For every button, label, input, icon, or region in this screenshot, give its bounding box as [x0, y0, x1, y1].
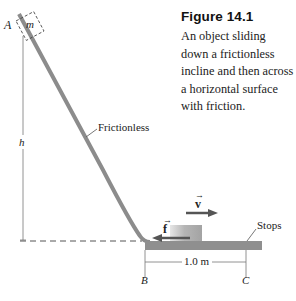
incline-diagram: A m h Frictionless → v → f Stops 1.0 m B…: [0, 0, 296, 301]
figure-title: Figure 14.1: [181, 9, 296, 24]
stops-leader-line: [247, 229, 256, 241]
frictionless-label: Frictionless: [98, 121, 149, 133]
point-c-label: C: [242, 274, 249, 286]
frictionless-leader-line: [86, 129, 97, 137]
height-label: h: [19, 135, 25, 149]
point-a-label: A: [4, 18, 11, 33]
distance-label: 1.0 m: [184, 255, 209, 267]
point-b-label: B: [141, 274, 148, 286]
stops-label: Stops: [257, 219, 281, 231]
mass-label: m: [26, 18, 34, 30]
friction-label: → f: [163, 222, 167, 237]
figure-caption: An object sliding down a frictionless in…: [181, 28, 296, 116]
figure-caption-block: Figure 14.1 An object sliding down a fri…: [181, 9, 296, 116]
velocity-label: → v: [195, 197, 201, 212]
horizontal-surface: [145, 241, 262, 250]
velocity-arrow: [186, 209, 218, 217]
